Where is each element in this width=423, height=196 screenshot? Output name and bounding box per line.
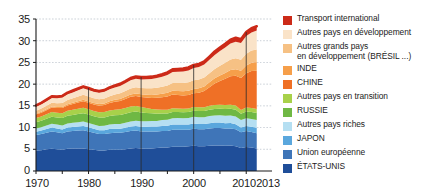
legend-item[interactable]: CHINE [283,78,423,91]
y-tick-label-5: 5 [6,142,30,154]
legend-item[interactable]: Autres pays en transition [283,92,423,105]
stacked-bands [36,26,257,171]
legend-swatch-icon [283,16,292,25]
legend-item-label: INDE [297,64,317,74]
legend-item[interactable]: Autres grands pays en développement (BRÉ… [283,42,423,63]
plot-area: 35 30 25 20 15 10 5 0 1970 1980 1990 200… [0,0,280,196]
y-tick-label-0: 0 [6,164,30,176]
legend-item-label: RUSSIE [297,106,328,116]
x-tick-label-1970: 1970 [19,177,55,189]
legend-item[interactable]: RUSSIE [283,106,423,119]
legend-item-label: CHINE [297,78,323,88]
legend-swatch-icon [283,150,292,159]
legend-swatch-icon [283,136,292,145]
legend-item[interactable]: ÉTATS-UNIS [283,162,423,175]
legend-item-label: Autres pays en développement [297,28,411,38]
y-tick-label-20: 20 [6,78,30,90]
y-tick-label-35: 35 [6,13,30,25]
legend-item-label: ÉTATS-UNIS [297,162,345,172]
legend-swatch-icon [283,122,292,131]
legend-item[interactable]: Autres pays en développement [283,28,423,41]
legend-item-label: Union européenne [297,148,365,158]
legend-item[interactable]: Autres pays riches [283,120,423,133]
y-tick-label-25: 25 [6,56,30,68]
legend-item[interactable]: Union européenne [283,148,423,161]
legend-item-label: JAPON [297,134,325,144]
y-tick-label-10: 10 [6,121,30,133]
legend-item[interactable]: JAPON [283,134,423,147]
legend-item-label: Autres pays en transition [297,92,388,102]
legend-item[interactable]: Transport international [283,14,423,27]
x-tick-label-2013: 2013 [252,177,284,189]
legend-swatch-icon [283,164,292,173]
x-tick-label-1980: 1980 [71,177,107,189]
legend-swatch-icon [283,94,292,103]
legend-item-label: Autres grands pays en développement (BRÉ… [297,42,411,61]
legend-swatch-icon [283,30,292,39]
legend-item-label: Autres pays riches [297,120,365,130]
legend-swatch-icon [283,44,292,53]
area-band [36,145,257,171]
x-tick-label-1990: 1990 [124,177,160,189]
legend-swatch-icon [283,80,292,89]
x-tick-label-2000: 2000 [176,177,212,189]
legend-item-label: Transport international [297,14,379,24]
y-tick-label-15: 15 [6,99,30,111]
legend-swatch-icon [283,66,292,75]
stacked-area-chart [0,0,280,196]
chart-figure: 35 30 25 20 15 10 5 0 1970 1980 1990 200… [0,0,423,196]
y-tick-label-30: 30 [6,35,30,47]
legend-item[interactable]: INDE [283,64,423,77]
legend-swatch-icon [283,108,292,117]
chart-legend: Transport internationalAutres pays en dé… [283,14,423,176]
